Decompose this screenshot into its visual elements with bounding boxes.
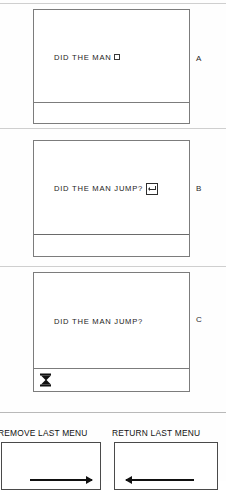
screen-c-content: DID THE MAN JUMP? xyxy=(34,273,189,370)
screen-c-prompt: DID THE MAN JUMP? xyxy=(34,317,143,326)
panel-letter-a: A xyxy=(196,54,202,63)
screen-b-content: DID THE MAN JUMP? xyxy=(34,141,189,236)
arrow-right-head xyxy=(86,476,93,484)
menu-action-return-last-menu[interactable]: RETURN LAST MENU xyxy=(114,428,226,481)
menu-action-remove-last-menu[interactable]: REMOVE LAST MENU xyxy=(1,428,105,481)
block-cursor-icon xyxy=(114,54,120,60)
arrow-right-icon xyxy=(30,479,92,481)
screen-c-status-strip xyxy=(34,368,189,391)
return-arrow-head xyxy=(148,187,150,191)
screen-b-status-strip xyxy=(34,234,189,256)
hourglass-cap-bottom xyxy=(40,385,51,387)
menu-action-return-box[interactable] xyxy=(114,442,218,490)
menu-action-return-title: RETURN LAST MENU xyxy=(112,428,200,438)
panel-letter-c: C xyxy=(196,315,202,324)
scan-rule-top xyxy=(0,3,226,4)
screen-a-status-strip xyxy=(34,102,189,123)
screen-a-content: DID THE MAN xyxy=(34,10,189,104)
screen-panel-c: DID THE MAN JUMP? xyxy=(33,272,190,392)
screen-panel-a: DID THE MAN xyxy=(33,9,190,124)
scan-rule-section-divider xyxy=(0,412,226,413)
arrow-left-head xyxy=(125,476,132,484)
menu-action-remove-box[interactable] xyxy=(1,442,101,490)
scan-rule-mid-1 xyxy=(0,128,226,129)
hourglass-icon xyxy=(40,374,51,387)
return-arrow-riser xyxy=(155,186,156,190)
screen-c-text: DID THE MAN JUMP? xyxy=(54,317,143,326)
arrow-left-icon xyxy=(126,479,194,481)
return-arrow-icon[interactable] xyxy=(146,183,158,195)
menu-action-remove-title: REMOVE LAST MENU xyxy=(0,428,88,438)
screen-b-text: DID THE MAN JUMP? xyxy=(54,184,143,193)
screen-b-prompt: DID THE MAN JUMP? xyxy=(34,183,158,195)
screen-a-text: DID THE MAN xyxy=(54,53,111,62)
screen-a-prompt: DID THE MAN xyxy=(34,53,120,62)
screen-panel-b: DID THE MAN JUMP? xyxy=(33,140,190,257)
scan-rule-mid-2 xyxy=(0,266,226,267)
panel-letter-b: B xyxy=(196,184,202,193)
